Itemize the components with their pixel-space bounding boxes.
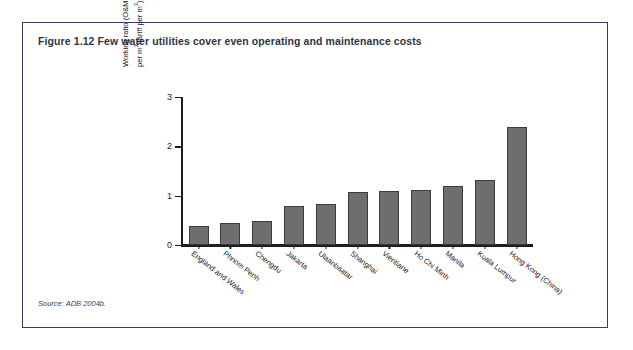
x-axis-label-hong-kong-china: Hong Kong (China) bbox=[508, 249, 565, 296]
bar-slot bbox=[214, 97, 246, 245]
bar-slot bbox=[246, 97, 278, 245]
y-tick-label-1: 1 bbox=[167, 191, 172, 201]
y-tick-label-0: 0 bbox=[167, 240, 172, 250]
figure-title: Figure 1.12 Few water utilities cover ev… bbox=[38, 35, 422, 47]
y-tick-label-3: 3 bbox=[167, 92, 172, 102]
y-axis-label: Working ratio (O&M costs per m3/tariff p… bbox=[121, 0, 145, 67]
x-tick bbox=[230, 245, 231, 249]
x-axis-label-vientiane: Vientiane bbox=[380, 249, 410, 276]
bar-slot bbox=[278, 97, 310, 245]
y-axis-label-line2-c: /tariff per m bbox=[135, 6, 144, 44]
bar-slot bbox=[469, 97, 501, 245]
x-tick bbox=[198, 245, 199, 249]
bar-shanghai[interactable] bbox=[348, 192, 368, 245]
bar-slot bbox=[437, 97, 469, 245]
bar-slot bbox=[183, 97, 215, 245]
bar-hong-kong-china[interactable] bbox=[507, 127, 527, 245]
x-tick bbox=[484, 245, 485, 249]
bar-ulaanbaatar[interactable] bbox=[316, 204, 336, 245]
y-axis-label-line2-e: ), selected utilities bbox=[135, 0, 144, 3]
bar-ho-chi-minh[interactable] bbox=[411, 190, 431, 245]
bar-slot bbox=[310, 97, 342, 245]
bar-slot bbox=[405, 97, 437, 245]
y-axis-label-line2: per m3/tariff per m3), selected utilitie… bbox=[131, 0, 145, 67]
bar-kuala-lumpur[interactable] bbox=[475, 180, 495, 245]
x-tick bbox=[262, 245, 263, 249]
y-axis-label-line1: Working ratio (O&M costs bbox=[121, 0, 130, 67]
y-tick-0 bbox=[175, 245, 181, 246]
bar-england-and-wales[interactable] bbox=[189, 226, 209, 245]
y-tick-label-2: 2 bbox=[167, 141, 172, 151]
y-tick-1 bbox=[175, 196, 181, 197]
x-tick bbox=[357, 245, 358, 249]
source-note: Source: ADB 2004b. bbox=[38, 299, 106, 308]
chart-plot-area: Working ratio (O&M costs per m3/tariff p… bbox=[123, 53, 593, 293]
x-tick bbox=[389, 245, 390, 249]
y-axis-label-line2-sup1: 3 bbox=[133, 44, 139, 47]
bar-slot bbox=[501, 97, 533, 245]
chart-axes: 0123 bbox=[181, 97, 531, 245]
x-axis-label-jakarta: Jakarta bbox=[285, 249, 310, 271]
x-tick bbox=[421, 245, 422, 249]
bar-slot bbox=[373, 97, 405, 245]
bar-slot bbox=[342, 97, 374, 245]
x-tick bbox=[452, 245, 453, 249]
bar-chengdu[interactable] bbox=[252, 221, 272, 245]
x-tick bbox=[293, 245, 294, 249]
y-axis-label-line2-a: per m bbox=[135, 48, 144, 67]
x-axis-label-england-and-wales: England and Wales bbox=[189, 249, 246, 296]
y-tick-3 bbox=[175, 97, 181, 98]
bar-jakarta[interactable] bbox=[284, 206, 304, 245]
bar-manila[interactable] bbox=[443, 186, 463, 245]
x-axis-label-manila: Manila bbox=[444, 249, 467, 270]
x-tick bbox=[325, 245, 326, 249]
bar-phnom-penh[interactable] bbox=[220, 223, 240, 245]
figure-page: Figure 1.12 Few water utilities cover ev… bbox=[0, 0, 633, 350]
bar-series bbox=[183, 97, 533, 245]
x-tick bbox=[516, 245, 517, 249]
figure-container: Figure 1.12 Few water utilities cover ev… bbox=[22, 22, 608, 328]
y-axis-label-line2-sup2: 3 bbox=[133, 3, 139, 6]
x-axis-label-chengdu: Chengdu bbox=[253, 249, 283, 275]
x-axis-label-shanghai: Shanghai bbox=[348, 249, 379, 276]
bar-vientiane[interactable] bbox=[379, 191, 399, 245]
y-tick-2 bbox=[175, 146, 181, 147]
